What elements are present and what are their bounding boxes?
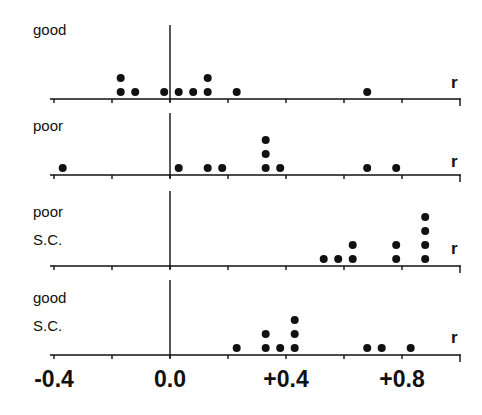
data-point-dot [117,74,125,82]
panel-label: poor [33,204,63,219]
data-point-dot [131,88,139,96]
panel-label: poor [33,118,63,133]
data-point-dot [204,164,212,172]
data-point-dot [291,344,299,352]
data-point-dot [262,164,270,172]
data-point-dot [363,344,371,352]
data-point-dot [262,150,270,158]
data-point-dot [349,241,357,249]
data-point-dot [175,88,183,96]
axis-label-r: r [451,240,458,257]
x-tick-label: +0.8 [379,368,424,391]
data-point-dot [392,241,400,249]
data-point-dot [392,255,400,263]
data-point-dot [291,316,299,324]
data-point-dot [378,344,386,352]
data-point-dot [320,255,328,263]
data-point-dot [407,344,415,352]
data-point-dot [291,330,299,338]
data-point-dot [392,164,400,172]
data-point-dot [262,136,270,144]
data-point-dot [421,241,429,249]
x-tick-label: 0.0 [154,368,186,391]
panel-label: S.C. [33,232,62,247]
data-point-dot [363,164,371,172]
data-point-dot [421,255,429,263]
data-point-dot [334,255,342,263]
data-point-dot [276,164,284,172]
data-point-dot [175,164,183,172]
panel-label: S.C. [33,318,62,333]
panel-label: good [33,290,66,305]
data-point-dot [204,74,212,82]
data-point-dot [117,88,125,96]
data-point-dot [233,344,241,352]
data-point-dot [204,88,212,96]
axis-label-r: r [451,329,458,346]
data-point-dot [218,164,226,172]
x-tick-label: +0.4 [263,368,308,391]
data-point-dot [262,344,270,352]
data-point-dot [160,88,168,96]
data-point-dot [59,164,67,172]
x-tick-label: -0.4 [34,368,74,391]
data-point-dot [349,255,357,263]
data-point-dot [233,88,241,96]
data-point-dot [189,88,197,96]
data-point-dot [421,213,429,221]
data-point-dot [363,88,371,96]
data-point-dot [262,330,270,338]
axis-label-r: r [451,153,458,170]
panel-label: good [33,22,66,37]
axis-label-r: r [451,74,458,91]
dot-plot-chart [0,0,482,415]
data-point-dot [421,227,429,235]
data-point-dot [276,344,284,352]
